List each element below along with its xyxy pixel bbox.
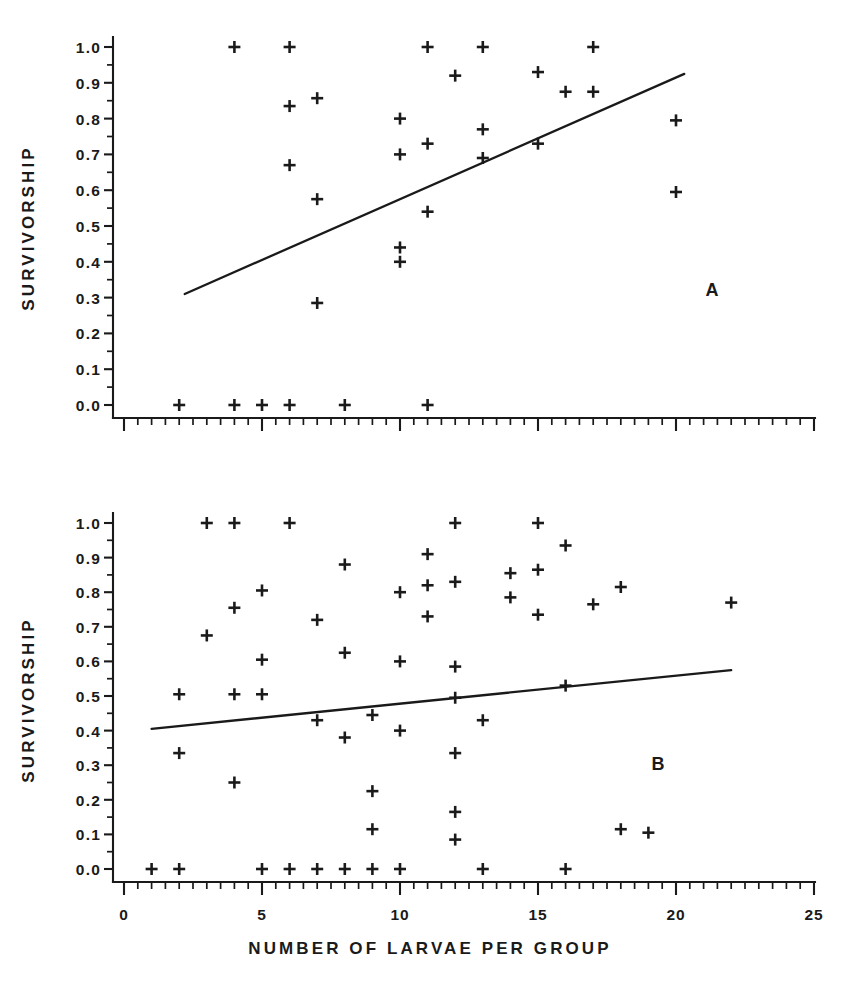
panel-label-a: A bbox=[706, 280, 719, 300]
y-tick-label: 0.0 bbox=[76, 861, 101, 878]
data-point-marker bbox=[311, 863, 323, 875]
data-point-marker bbox=[642, 827, 654, 839]
y-tick-label: 0.8 bbox=[76, 111, 101, 128]
regression-line bbox=[185, 74, 685, 294]
data-point-marker bbox=[311, 714, 323, 726]
y-tick-label: 0.0 bbox=[76, 397, 101, 414]
data-point-marker bbox=[146, 863, 158, 875]
y-tick-label: 0.2 bbox=[76, 792, 101, 809]
data-point-marker bbox=[228, 602, 240, 614]
x-tick-label: 5 bbox=[257, 906, 267, 923]
data-point-marker bbox=[615, 581, 627, 593]
data-point-marker bbox=[560, 86, 572, 98]
data-point-marker bbox=[284, 100, 296, 112]
data-point-marker bbox=[394, 256, 406, 268]
data-point-marker bbox=[532, 609, 544, 621]
data-point-marker bbox=[394, 113, 406, 125]
data-point-marker bbox=[256, 863, 268, 875]
data-point-marker bbox=[532, 564, 544, 576]
data-point-marker bbox=[477, 123, 489, 135]
data-point-marker bbox=[670, 114, 682, 126]
data-point-marker bbox=[422, 610, 434, 622]
x-tick-label: 0 bbox=[119, 906, 129, 923]
y-axis-title-b: SURVIVORSHIP bbox=[19, 617, 38, 782]
figure-container: 0.00.10.20.30.40.50.60.70.80.91.0 0.00.1… bbox=[0, 0, 859, 985]
data-point-marker bbox=[394, 725, 406, 737]
data-point-marker bbox=[587, 86, 599, 98]
data-point-marker bbox=[366, 785, 378, 797]
data-point-marker bbox=[449, 692, 461, 704]
y-tick-label: 0.7 bbox=[76, 146, 101, 163]
panel-b: 0.00.10.20.30.40.50.60.70.80.91.00510152… bbox=[76, 513, 824, 923]
data-point-marker bbox=[339, 399, 351, 411]
data-point-marker bbox=[477, 863, 489, 875]
data-point-marker bbox=[228, 688, 240, 700]
data-point-marker bbox=[560, 863, 572, 875]
data-point-marker bbox=[173, 863, 185, 875]
data-point-marker bbox=[477, 152, 489, 164]
data-point-marker bbox=[311, 193, 323, 205]
data-point-marker bbox=[284, 41, 296, 53]
panel-a: 0.00.10.20.30.40.50.60.70.80.91.0 bbox=[76, 37, 815, 431]
data-point-marker bbox=[339, 559, 351, 571]
y-tick-label: 1.0 bbox=[76, 39, 101, 56]
data-point-marker bbox=[422, 399, 434, 411]
y-axis-title-a: SURVIVORSHIP bbox=[19, 145, 38, 310]
data-point-marker bbox=[422, 41, 434, 53]
y-tick-label: 0.5 bbox=[76, 688, 101, 705]
y-tick-label: 0.3 bbox=[76, 757, 101, 774]
y-tick-label: 0.5 bbox=[76, 218, 101, 235]
data-point-marker bbox=[449, 576, 461, 588]
data-point-marker bbox=[560, 680, 572, 692]
data-point-marker bbox=[201, 517, 213, 529]
data-point-marker bbox=[615, 823, 627, 835]
data-point-marker bbox=[173, 747, 185, 759]
data-point-marker bbox=[228, 41, 240, 53]
y-tick-label: 0.3 bbox=[76, 290, 101, 307]
data-point-marker bbox=[587, 598, 599, 610]
data-point-marker bbox=[339, 647, 351, 659]
data-point-marker bbox=[422, 579, 434, 591]
panel-label-b: B bbox=[652, 754, 665, 774]
data-point-marker bbox=[725, 597, 737, 609]
data-point-marker bbox=[449, 806, 461, 818]
data-point-marker bbox=[422, 138, 434, 150]
data-point-marker bbox=[422, 206, 434, 218]
data-point-marker bbox=[670, 186, 682, 198]
data-point-marker bbox=[173, 688, 185, 700]
data-point-marker bbox=[173, 399, 185, 411]
x-tick-label: 15 bbox=[528, 906, 547, 923]
data-point-marker bbox=[449, 70, 461, 82]
data-point-marker bbox=[228, 399, 240, 411]
y-tick-label: 0.9 bbox=[76, 75, 101, 92]
data-point-marker bbox=[449, 747, 461, 759]
x-tick-label: 25 bbox=[804, 906, 823, 923]
y-tick-label: 0.2 bbox=[76, 325, 101, 342]
y-tick-label: 0.4 bbox=[76, 254, 101, 271]
data-point-marker bbox=[477, 41, 489, 53]
y-tick-label: 0.7 bbox=[76, 619, 101, 636]
data-point-marker bbox=[366, 709, 378, 721]
data-point-marker bbox=[394, 863, 406, 875]
data-point-marker bbox=[201, 629, 213, 641]
y-tick-label: 0.1 bbox=[76, 361, 101, 378]
scatter-figure: 0.00.10.20.30.40.50.60.70.80.91.0 0.00.1… bbox=[0, 0, 859, 985]
data-point-marker bbox=[339, 732, 351, 744]
y-tick-label: 0.6 bbox=[76, 182, 101, 199]
data-point-marker bbox=[228, 517, 240, 529]
data-point-marker bbox=[284, 399, 296, 411]
data-point-marker bbox=[228, 777, 240, 789]
x-tick-label: 20 bbox=[666, 906, 685, 923]
x-axis-title: NUMBER OF LARVAE PER GROUP bbox=[248, 939, 611, 958]
data-point-marker bbox=[449, 517, 461, 529]
data-point-marker bbox=[422, 548, 434, 560]
y-tick-label: 0.4 bbox=[76, 723, 101, 740]
data-point-marker bbox=[504, 591, 516, 603]
data-point-marker bbox=[339, 863, 351, 875]
x-tick-label: 10 bbox=[390, 906, 409, 923]
y-tick-label: 0.9 bbox=[76, 550, 101, 567]
data-point-marker bbox=[394, 148, 406, 160]
data-point-marker bbox=[449, 661, 461, 673]
data-point-marker bbox=[311, 92, 323, 104]
data-point-marker bbox=[449, 834, 461, 846]
